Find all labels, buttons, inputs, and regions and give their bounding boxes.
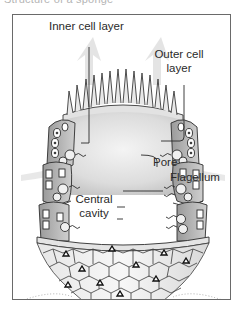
figure-caption-cropped: Structure of a sponge (4, 0, 113, 5)
label-central-cavity-line1: Central (67, 193, 121, 205)
label-outer-cell-layer: Outer cell layer (146, 48, 212, 74)
label-central-cavity: Central cavity (67, 193, 121, 219)
figure-frame: Inner cell layer Outer cell layer Pore F… (12, 14, 231, 300)
label-inner-cell-layer: Inner cell layer (49, 20, 124, 32)
label-flagellum: Flagellum (170, 171, 220, 183)
lower-wall (37, 202, 209, 251)
label-outer-cell-layer-line1: Outer cell (146, 48, 212, 60)
label-outer-cell-layer-line2: layer (146, 62, 212, 74)
label-pore: Pore (153, 156, 177, 168)
label-central-cavity-line2: cavity (67, 207, 121, 219)
sponge-base-mesh (21, 243, 225, 300)
